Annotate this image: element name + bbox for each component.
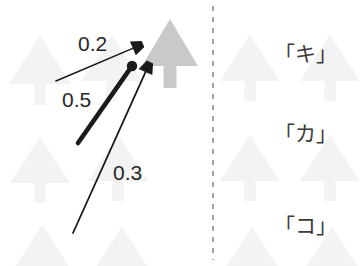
tree-canopy xyxy=(142,19,198,66)
kana-label-ki: 「キ」 xyxy=(274,44,337,65)
tree-icon xyxy=(142,19,198,88)
arrow-group xyxy=(56,41,153,233)
kana-label-ko: 「コ」 xyxy=(274,216,337,237)
arrow-dot-head xyxy=(127,61,137,71)
arrow-weight-label-3: 0.3 xyxy=(113,162,142,183)
arrow-weight-label-1: 0.2 xyxy=(78,33,107,54)
arrow-weight-label-2: 0.5 xyxy=(62,89,91,110)
kana-label-ka: 「カ」 xyxy=(274,124,337,145)
diagram-canvas: 0.2 0.5 0.3 「キ」 「カ」 「コ」 xyxy=(0,0,363,266)
